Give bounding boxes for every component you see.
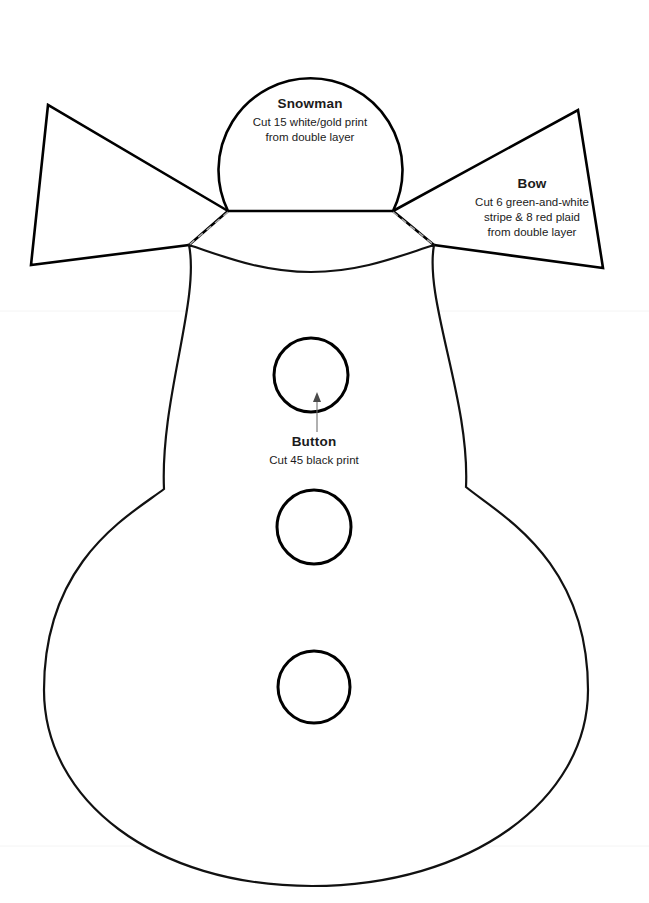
- snowman-label: Snowman Cut 15 white/gold print from dou…: [206, 95, 414, 145]
- button-label-line-1: Cut 45 black print: [238, 453, 390, 468]
- bow-label: Bow Cut 6 green-and-white stripe & 8 red…: [434, 175, 630, 240]
- snowman-label-line-2: from double layer: [206, 130, 414, 145]
- bow-label-line-2: stripe & 8 red plaid: [434, 210, 630, 225]
- bow-label-line-1: Cut 6 green-and-white: [434, 195, 630, 210]
- button-label: Button Cut 45 black print: [238, 433, 390, 468]
- button-circle-bottom: [278, 651, 350, 723]
- button-circle-top: [274, 338, 348, 412]
- snowman-label-title: Snowman: [206, 95, 414, 113]
- pattern-sheet: Snowman Cut 15 white/gold print from dou…: [0, 0, 649, 903]
- button-circle-middle: [277, 490, 351, 564]
- bow-label-line-3: from double layer: [434, 225, 630, 240]
- button-label-title: Button: [238, 433, 390, 451]
- bow-label-title: Bow: [434, 175, 630, 193]
- snowman-label-line-1: Cut 15 white/gold print: [206, 115, 414, 130]
- bow-left-piece: [31, 105, 228, 265]
